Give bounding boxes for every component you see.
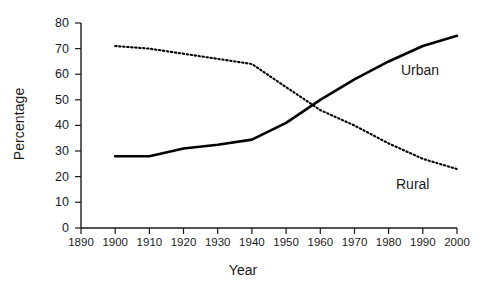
y-tick-marks [75,23,81,228]
x-tick-marks [81,228,457,234]
series-line-urban [115,36,457,156]
y-tick-label: 40 [33,119,69,132]
line-chart: Percentage Year 80 70 60 50 40 30 20 10 … [0,0,486,298]
y-tick-label: 70 [33,43,69,56]
y-tick-label: 60 [33,68,69,81]
series-label-rural: Rural [396,176,429,192]
y-tick-label: 80 [33,17,69,30]
y-tick-label: 50 [33,94,69,107]
y-tick-label: 30 [33,145,69,158]
plot-area [0,0,486,298]
series-label-urban: Urban [401,62,439,78]
y-axis-title-text: Percentage [11,88,27,161]
y-axis-title: Percentage [6,0,32,248]
y-tick-label: 10 [33,196,69,209]
y-tick-label: 0 [33,222,69,235]
y-tick-label: 20 [33,171,69,184]
x-tick-label: 2000 [435,236,479,248]
x-axis-title: Year [0,262,486,278]
